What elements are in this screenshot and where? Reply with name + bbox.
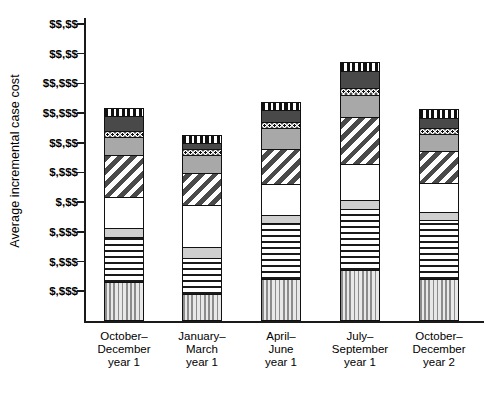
y-axis-tick-label: $$,$$$ bbox=[26, 77, 78, 89]
bar-segment-vertical-stripe-dense[interactable] bbox=[261, 279, 301, 321]
bar-segment-diagonal-stripe[interactable] bbox=[340, 117, 380, 165]
y-axis-title-text: Average incremental case cost bbox=[8, 74, 22, 248]
bar-segment-medium-gray-solid[interactable] bbox=[261, 128, 301, 149]
bar-segment-white-solid[interactable] bbox=[261, 184, 301, 217]
bar-segment-vertical-stripe-dense[interactable] bbox=[340, 270, 380, 321]
bar-segment-horizontal-stripe[interactable] bbox=[340, 209, 380, 271]
y-axis-tick-label: $,$$$ bbox=[26, 256, 78, 268]
bar-4[interactable] bbox=[340, 62, 380, 321]
y-axis-tick-mark bbox=[77, 23, 85, 25]
bar-segment-medium-gray-solid[interactable] bbox=[340, 95, 380, 118]
y-axis-tick-mark bbox=[77, 261, 85, 263]
y-axis-tick-label: $$,$$ bbox=[26, 137, 78, 149]
y-axis-tick-mark bbox=[77, 201, 85, 203]
y-axis-tick-mark bbox=[77, 53, 85, 55]
bar-1[interactable] bbox=[104, 108, 144, 321]
y-axis-tick-label: $,$$$ bbox=[26, 166, 78, 178]
bar-segment-diagonal-stripe[interactable] bbox=[104, 155, 144, 198]
bar-2[interactable] bbox=[182, 135, 222, 321]
y-axis-tick-mark bbox=[77, 142, 85, 144]
bar-segment-white-solid[interactable] bbox=[419, 183, 459, 213]
bar-segment-dark-gray-solid[interactable] bbox=[104, 116, 144, 131]
x-axis-tick-labels: October–Decemberyear 1January–Marchyear … bbox=[84, 330, 484, 390]
bar-segment-white-solid[interactable] bbox=[104, 197, 144, 230]
bar-3[interactable] bbox=[261, 102, 301, 321]
bar-5[interactable] bbox=[419, 109, 459, 321]
bar-segment-white-solid[interactable] bbox=[182, 205, 222, 248]
x-axis-tick-label-line: year 2 bbox=[391, 356, 487, 369]
y-axis-tick-label: $,$$$ bbox=[26, 226, 78, 238]
y-axis-tick-mark bbox=[77, 231, 85, 233]
bar-segment-vertical-stripe-dense[interactable] bbox=[182, 294, 222, 321]
x-axis-tick-label: October–Decemberyear 2 bbox=[391, 330, 487, 370]
bar-segment-horizontal-stripe[interactable] bbox=[261, 223, 301, 279]
x-axis-line bbox=[84, 321, 484, 323]
bar-segment-vertical-stripe-dense[interactable] bbox=[104, 282, 144, 321]
bar-segment-diagonal-stripe[interactable] bbox=[419, 151, 459, 184]
x-axis-tick-label-line: December bbox=[391, 343, 487, 356]
bar-segment-horizontal-stripe[interactable] bbox=[104, 237, 144, 283]
bar-segment-dark-gray-solid[interactable] bbox=[340, 71, 380, 89]
y-axis-tick-label: $,$$$ bbox=[26, 285, 78, 297]
bars-layer bbox=[84, 18, 484, 321]
y-axis-tick-labels: $$,$$$$,$$$$,$$$$$,$$$$$,$$$,$$$$,$$$,$$… bbox=[26, 0, 78, 340]
bar-segment-white-solid[interactable] bbox=[340, 164, 380, 201]
bar-segment-horizontal-stripe[interactable] bbox=[419, 220, 459, 279]
y-axis-tick-label: $$,$$ bbox=[26, 48, 78, 60]
y-axis-tick-mark bbox=[77, 172, 85, 174]
bar-segment-medium-gray-solid[interactable] bbox=[182, 155, 222, 174]
bar-segment-medium-gray-solid[interactable] bbox=[419, 134, 459, 152]
y-axis-tick-label: $,$$ bbox=[26, 196, 78, 208]
bar-segment-horizontal-stripe[interactable] bbox=[182, 258, 222, 294]
bar-segment-diagonal-stripe[interactable] bbox=[261, 149, 301, 185]
y-axis-tick-mark bbox=[77, 112, 85, 114]
bar-segment-medium-gray-solid[interactable] bbox=[104, 137, 144, 155]
y-axis-tick-mark bbox=[77, 83, 85, 85]
y-axis-tick-label: $$,$$ bbox=[26, 18, 78, 30]
y-axis-tick-mark bbox=[77, 290, 85, 292]
x-axis-tick-label-line: October– bbox=[391, 330, 487, 343]
stacked-bar-chart: Average incremental case cost $$,$$$$,$$… bbox=[0, 0, 493, 396]
bar-segment-diagonal-stripe[interactable] bbox=[182, 173, 222, 206]
bar-segment-vertical-stripe-dense[interactable] bbox=[419, 279, 459, 321]
y-axis-tick-label: $$,$$$ bbox=[26, 107, 78, 119]
